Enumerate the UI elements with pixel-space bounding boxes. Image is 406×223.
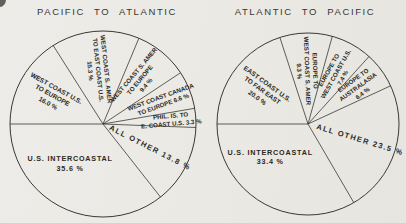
pie-slice-boundary [53, 46, 103, 125]
pie-slice-boundary [103, 73, 181, 124]
scanned-pie-chart-page: PACIFIC TO ATLANTIC ATLANTIC TO PACIFIC … [0, 0, 406, 223]
pie-slice-boundary [280, 38, 308, 125]
pie-slice-boundary [103, 124, 161, 197]
pie-slice-boundary [308, 124, 354, 203]
pie-slice-boundary [308, 86, 391, 124]
pie-charts-svg [0, 0, 406, 223]
pie-slice-boundary [103, 108, 195, 124]
pie-slice-boundary [103, 38, 139, 124]
pie-slice-boundary [103, 124, 196, 128]
